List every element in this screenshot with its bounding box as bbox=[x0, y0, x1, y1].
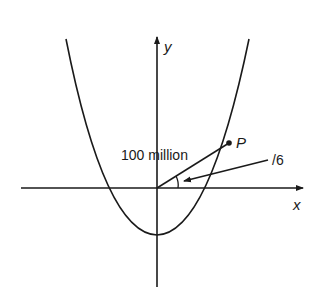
y-axis-label: y bbox=[163, 38, 173, 55]
angle-label: /6 bbox=[272, 152, 284, 168]
diagram-canvas: y x P 100 million /6 bbox=[0, 0, 323, 291]
x-axis-label: x bbox=[292, 196, 301, 213]
angle-arc bbox=[176, 176, 178, 188]
segment-label: 100 million bbox=[121, 147, 188, 163]
point-p-label: P bbox=[236, 134, 246, 151]
point-p-marker bbox=[226, 140, 232, 146]
